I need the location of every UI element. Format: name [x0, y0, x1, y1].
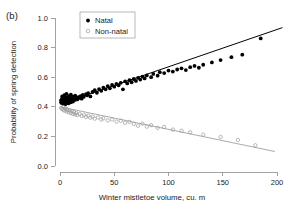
point-natal — [219, 58, 223, 62]
point-natal — [158, 70, 162, 74]
point-natal — [145, 74, 149, 78]
point-natal — [210, 61, 214, 65]
point-natal — [156, 74, 160, 78]
point-non-natal — [156, 126, 159, 129]
legend-label-non-natal: Non-natal — [95, 27, 128, 36]
point-natal — [175, 68, 179, 72]
point-non-natal — [219, 135, 222, 138]
point-non-natal — [236, 138, 239, 141]
fit-line-non-natal — [60, 107, 275, 152]
point-non-natal — [145, 125, 148, 128]
point-non-natal — [202, 133, 205, 136]
x-tick-label: 0 — [58, 178, 62, 187]
point-non-natal — [123, 121, 126, 124]
point-natal — [230, 55, 234, 59]
point-non-natal — [189, 131, 192, 134]
y-tick-label: 0.0 — [38, 162, 48, 171]
point-natal — [167, 69, 171, 73]
y-tick-label: 0.2 — [38, 132, 48, 141]
point-natal — [184, 68, 188, 72]
x-tick-label: 150 — [216, 178, 229, 187]
point-non-natal — [136, 124, 139, 127]
point-non-natal — [93, 117, 96, 120]
x-tick-label: 100 — [162, 178, 175, 187]
point-natal — [125, 82, 129, 86]
point-natal — [180, 66, 184, 70]
figure-panel-b: (b) 0.00.20.40.60.81.0 050100150200 Wint… — [0, 0, 290, 207]
legend-marker-natal — [86, 19, 90, 23]
point-natal — [104, 87, 108, 91]
point-natal — [162, 71, 166, 75]
point-natal — [188, 65, 192, 69]
point-natal — [197, 66, 201, 70]
point-natal — [121, 87, 125, 91]
y-tick-label: 0.6 — [38, 73, 48, 82]
legend-label-natal: Natal — [95, 16, 113, 25]
scatter-plot: 0.00.20.40.60.81.0 050100150200 Winter m… — [0, 0, 290, 207]
point-non-natal — [171, 128, 174, 131]
data-points — [59, 37, 262, 147]
point-natal — [88, 95, 92, 99]
point-non-natal — [110, 118, 113, 121]
point-natal — [149, 75, 153, 79]
legend: Natal Non-natal — [80, 12, 135, 38]
x-axis-title: Winter mistletoe volume, cu. m — [99, 193, 206, 202]
x-axis-ticks: 050100150200 — [58, 172, 283, 187]
y-axis-title: Probability of spring detection — [9, 41, 18, 143]
point-natal — [130, 80, 134, 84]
point-natal — [193, 64, 197, 68]
point-natal — [171, 70, 175, 74]
point-non-natal — [115, 120, 118, 123]
y-tick-label: 0.4 — [38, 102, 48, 111]
point-natal — [240, 53, 244, 57]
point-natal — [86, 91, 90, 95]
point-non-natal — [254, 144, 257, 147]
point-natal — [95, 91, 99, 95]
point-natal — [99, 89, 103, 93]
x-tick-label: 50 — [110, 178, 118, 187]
point-natal — [108, 86, 112, 90]
point-natal — [259, 37, 263, 41]
point-natal — [151, 72, 155, 76]
x-tick-label: 200 — [271, 178, 284, 187]
y-tick-label: 0.8 — [38, 43, 48, 52]
point-natal — [134, 79, 138, 83]
point-natal — [119, 81, 123, 85]
point-non-natal — [96, 116, 99, 119]
point-non-natal — [106, 119, 109, 122]
y-axis-ticks: 0.00.20.40.60.81.0 — [38, 14, 55, 171]
point-natal — [201, 63, 205, 67]
y-tick-label: 1.0 — [38, 14, 48, 23]
point-non-natal — [132, 122, 135, 125]
